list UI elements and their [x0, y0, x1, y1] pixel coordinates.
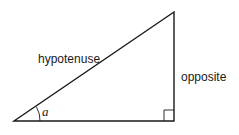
angle-arc	[37, 107, 41, 121]
right-triangle-diagram: hypotenuse opposite a	[0, 0, 239, 135]
hypotenuse-label: hypotenuse	[38, 52, 100, 66]
triangle-shape	[14, 12, 174, 121]
angle-label: a	[42, 104, 49, 119]
opposite-label: opposite	[181, 70, 227, 84]
right-angle-marker	[164, 110, 174, 121]
